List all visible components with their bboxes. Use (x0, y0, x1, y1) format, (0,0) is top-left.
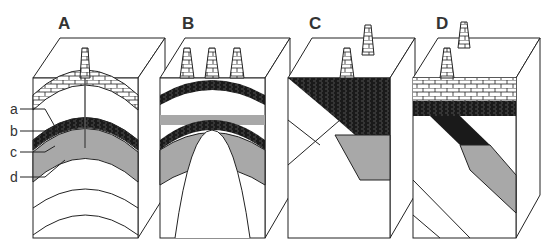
panel-label-a: A (58, 14, 70, 34)
layer-label-d: d (10, 169, 18, 185)
panel-label-d: D (436, 14, 448, 34)
layer-label-b: b (10, 123, 18, 139)
panel-d (413, 22, 540, 238)
panel-label-b: B (182, 14, 194, 34)
panel-b (160, 38, 290, 238)
panel-label-c: C (309, 14, 321, 34)
panel-c (288, 25, 415, 238)
layer-label-c: c (10, 144, 17, 160)
panel-a (33, 38, 165, 238)
derrick-icon (80, 48, 90, 78)
derrick-icon (362, 25, 374, 55)
derrick-icon (458, 22, 470, 48)
layer-label-a: a (10, 101, 18, 117)
trap-diagram (0, 0, 553, 252)
